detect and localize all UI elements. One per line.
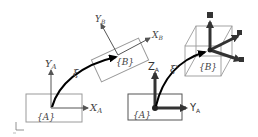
xi-label: ξ <box>73 67 79 78</box>
frame-a-label: {A} <box>37 112 55 122</box>
corner-axes-icon <box>13 122 24 133</box>
frame-b-label: {B} <box>116 57 134 67</box>
transform-arrow-xi-prime <box>156 52 205 106</box>
y-b-label: YB <box>95 14 106 25</box>
y-a-label: YA <box>45 58 57 71</box>
xi-prime-label: ξ' <box>170 63 178 74</box>
frame-a-label-3d: {A} <box>133 110 151 120</box>
frame-b-origin <box>208 48 213 53</box>
z-a-label: ZA <box>148 61 160 73</box>
y-a-label-3d: YA <box>189 102 201 114</box>
frame-b-label-3d: {B} <box>199 62 217 72</box>
x-b-axis-3d <box>210 36 238 50</box>
x-a-label: XA <box>89 102 102 115</box>
transform-arrow-xi <box>52 57 116 107</box>
y-b-axis <box>101 24 118 55</box>
y-b-axis-3d <box>210 50 240 60</box>
x-b-label: XB <box>151 30 163 41</box>
right-panel-3d: ZA YA {A} {B} ξ' <box>128 12 244 120</box>
frame-transform-diagram: YA XA {A} XB YB {B} ξ ZA YA <box>0 0 258 137</box>
frame-a-origin <box>152 105 158 111</box>
